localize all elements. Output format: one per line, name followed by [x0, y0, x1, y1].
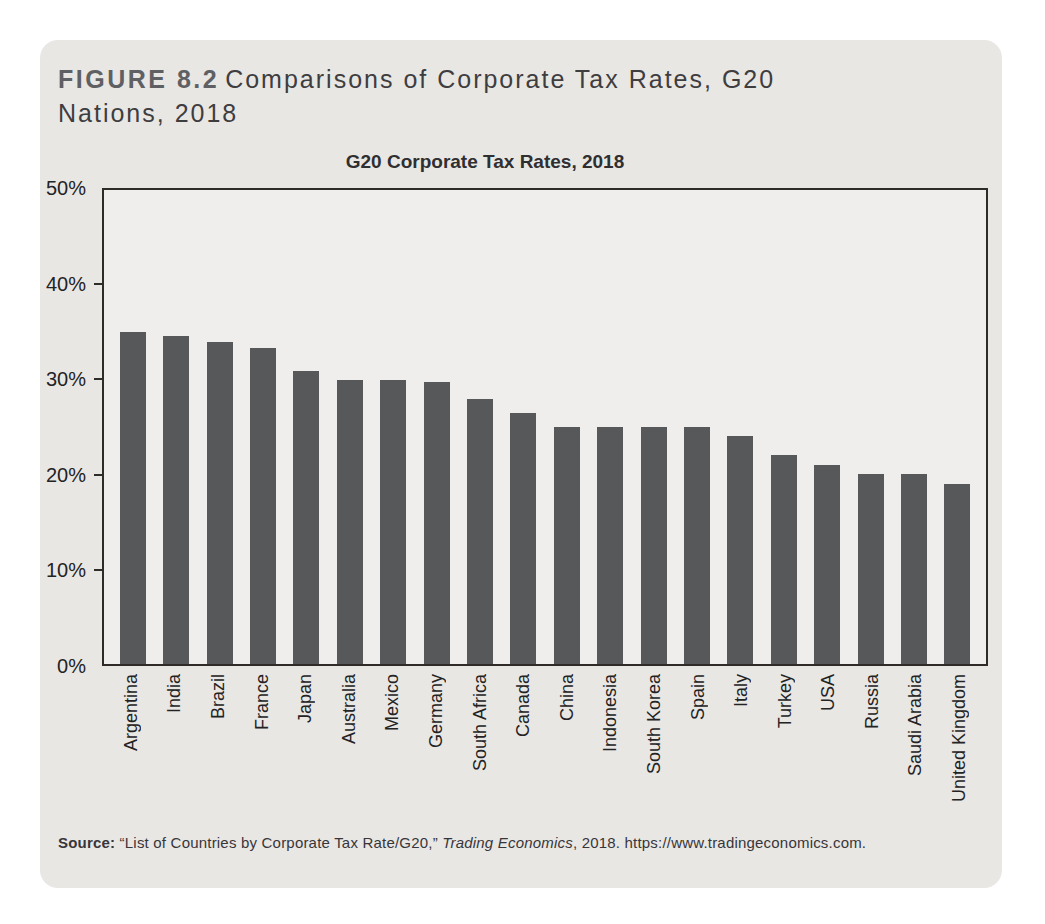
x-tick-slot: Italy — [719, 674, 763, 824]
bar-slot — [588, 190, 631, 664]
plot-area — [102, 188, 988, 666]
bar-south-africa — [467, 399, 493, 664]
bar-slot — [806, 190, 849, 664]
x-tick-label: South Africa — [471, 674, 489, 771]
x-tick-slot: South Korea — [632, 674, 676, 824]
x-tick-slot: USA — [807, 674, 851, 824]
bar-usa — [814, 465, 840, 664]
source-publication: Trading Economics — [442, 834, 573, 851]
x-tick-label: Germany — [427, 674, 445, 748]
y-tick-label: 40% — [46, 272, 86, 295]
x-tick-slot: Mexico — [371, 674, 415, 824]
x-tick-label: Japan — [296, 674, 314, 723]
x-tick-label: Spain — [689, 674, 707, 720]
x-tick-slot: Indonesia — [589, 674, 633, 824]
bar-slot — [502, 190, 545, 664]
bar-slot — [241, 190, 284, 664]
y-tick-label: 0% — [57, 655, 86, 678]
bar-russia — [858, 474, 884, 664]
bar-turkey — [771, 455, 797, 664]
x-tick-label: India — [165, 674, 183, 713]
x-tick-slot: Germany — [414, 674, 458, 824]
bar-slot — [371, 190, 414, 664]
x-tick-slot: China — [545, 674, 589, 824]
x-tick-label: Russia — [863, 674, 881, 729]
x-tick-slot: Spain — [676, 674, 720, 824]
bars-container — [104, 190, 986, 664]
bar-italy — [727, 436, 753, 664]
x-tick-label: Mexico — [383, 674, 401, 731]
x-tick-label: Australia — [340, 674, 358, 744]
x-tick-slot: India — [153, 674, 197, 824]
bar-slot — [545, 190, 588, 664]
y-tick-mark — [94, 378, 102, 380]
figure-label: FIGURE 8.2 — [58, 65, 219, 93]
source-citation-tail: , 2018. https://www.tradingeconomics.com… — [573, 834, 866, 851]
y-tick-mark — [94, 569, 102, 571]
bar-slot — [415, 190, 458, 664]
x-tick-label: USA — [819, 674, 837, 711]
bar-spain — [684, 427, 710, 664]
x-tick-slot: France — [240, 674, 284, 824]
bar-slot — [719, 190, 762, 664]
bar-brazil — [207, 342, 233, 664]
x-tick-slot: Japan — [283, 674, 327, 824]
y-tick-label: 50% — [46, 177, 86, 200]
bar-france — [250, 348, 276, 664]
x-tick-slot: South Africa — [458, 674, 502, 824]
x-tick-slot: Argentina — [109, 674, 153, 824]
source-citation-text: “List of Countries by Corporate Tax Rate… — [115, 834, 442, 851]
y-tick-label: 20% — [46, 463, 86, 486]
bar-slot — [675, 190, 718, 664]
x-tick-label: Canada — [514, 674, 532, 737]
y-tick-label: 30% — [46, 368, 86, 391]
x-tick-slot: Australia — [327, 674, 371, 824]
bar-united-kingdom — [944, 484, 970, 664]
y-tick-label: 10% — [46, 559, 86, 582]
x-tick-label: Italy — [732, 674, 750, 707]
bar-slot — [458, 190, 501, 664]
x-tick-label: France — [253, 674, 271, 730]
x-axis-labels: ArgentinaIndiaBrazilFranceJapanAustralia… — [102, 674, 988, 824]
bar-indonesia — [597, 427, 623, 664]
bar-slot — [285, 190, 328, 664]
bar-slot — [198, 190, 241, 664]
y-tick-mark — [94, 474, 102, 476]
x-tick-label: Saudi Arabia — [906, 674, 924, 776]
x-tick-slot: Turkey — [763, 674, 807, 824]
x-tick-label: Brazil — [209, 674, 227, 719]
bar-argentina — [120, 332, 146, 664]
bar-slot — [111, 190, 154, 664]
x-tick-slot: Brazil — [196, 674, 240, 824]
bar-south-korea — [641, 427, 667, 664]
x-tick-slot: Canada — [501, 674, 545, 824]
bar-japan — [293, 371, 319, 664]
bar-slot — [154, 190, 197, 664]
figure-card: FIGURE 8.2Comparisons of Corporate Tax R… — [40, 40, 1002, 888]
bar-australia — [337, 380, 363, 664]
x-tick-slot: Russia — [850, 674, 894, 824]
source-line: Source: “List of Countries by Corporate … — [58, 834, 992, 851]
y-tick-mark — [94, 283, 102, 285]
x-tick-label: Argentina — [122, 674, 140, 751]
x-tick-slot: Saudi Arabia — [894, 674, 938, 824]
chart-title: G20 Corporate Tax Rates, 2018 — [40, 151, 930, 173]
bar-mexico — [380, 380, 406, 664]
x-tick-label: Turkey — [776, 674, 794, 728]
bar-slot — [936, 190, 979, 664]
bar-slot — [632, 190, 675, 664]
y-axis: 0%10%20%30%40%50% — [40, 188, 94, 666]
x-tick-label: United Kingdom — [950, 674, 968, 802]
source-label: Source: — [58, 834, 115, 851]
bar-china — [554, 427, 580, 664]
x-tick-label: China — [558, 674, 576, 721]
x-tick-label: South Korea — [645, 674, 663, 774]
bar-slot — [892, 190, 935, 664]
x-tick-slot: United Kingdom — [937, 674, 981, 824]
bar-india — [163, 336, 189, 664]
bar-germany — [424, 382, 450, 665]
bar-slot — [328, 190, 371, 664]
page: FIGURE 8.2Comparisons of Corporate Tax R… — [0, 0, 1045, 924]
bar-canada — [510, 413, 536, 664]
x-tick-label: Indonesia — [601, 674, 619, 752]
